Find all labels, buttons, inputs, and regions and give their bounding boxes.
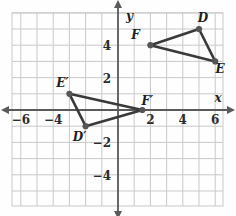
y-tick-label: −4: [93, 169, 111, 183]
vertex-point: [66, 91, 72, 97]
y-tick-label: 4: [103, 39, 111, 53]
vertex-label-E-prime: E′: [55, 76, 69, 90]
vertex-point: [196, 26, 202, 32]
x-tick-label: 4: [179, 113, 187, 127]
y-tick-label: 2: [103, 72, 111, 86]
coordinate-plane-svg: −6−424642−2−4 xy DEFD′E′F′: [0, 0, 236, 216]
y-axis-label: y: [125, 9, 134, 23]
vertex-point: [83, 123, 89, 129]
vertex-label-D-prime: D′: [72, 130, 87, 144]
x-tick-label: −6: [12, 113, 30, 127]
coordinate-plane-figure: −6−424642−2−4 xy DEFD′E′F′: [0, 0, 236, 216]
y-tick-label: −2: [93, 136, 111, 150]
vertex-label-F: F: [130, 28, 141, 42]
vertex-label-F-prime: F′: [140, 94, 154, 108]
vertex-point: [147, 42, 153, 48]
vertex-label-D: D: [197, 11, 209, 25]
x-tick-label: 6: [211, 113, 219, 127]
x-axis-label: x: [213, 91, 222, 105]
x-tick-label: −4: [44, 113, 62, 127]
vertex-label-E: E: [215, 62, 226, 76]
x-tick-label: 2: [146, 113, 154, 127]
